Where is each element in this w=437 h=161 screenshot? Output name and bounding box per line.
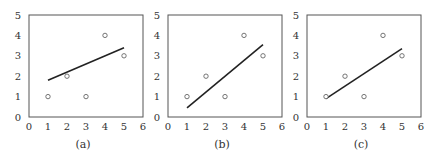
x-tick-label: 2 (203, 121, 209, 132)
x-tick-label: 0 (26, 121, 32, 132)
panel-caption: (a) (75, 138, 90, 151)
fit-line (326, 49, 402, 99)
chart-panel-c: 0123456012345(c) (293, 10, 425, 152)
y-tick-label: 3 (154, 50, 160, 61)
x-tick-label: 1 (323, 121, 329, 132)
x-tick-label: 6 (140, 121, 146, 132)
y-tick-label: 4 (293, 30, 299, 41)
y-tick-label: 5 (15, 10, 21, 21)
y-tick-label: 3 (293, 50, 299, 61)
plot-frame (29, 15, 143, 117)
figure: 0123456012345(a)0123456012345(b)01234560… (0, 0, 437, 161)
x-tick-label: 0 (165, 121, 171, 132)
x-tick-label: 6 (418, 121, 424, 132)
y-tick-label: 0 (154, 112, 160, 123)
y-tick-label: 2 (15, 71, 21, 82)
x-tick-label: 0 (304, 121, 310, 132)
x-tick-label: 6 (279, 121, 285, 132)
data-point (381, 33, 385, 37)
y-tick-label: 5 (154, 10, 160, 21)
y-tick-label: 4 (15, 30, 21, 41)
chart-panel-b: 0123456012345(b) (154, 10, 286, 152)
data-point (343, 74, 347, 78)
data-point (400, 54, 404, 58)
y-tick-label: 2 (154, 71, 160, 82)
y-tick-label: 1 (154, 91, 160, 102)
x-tick-label: 4 (102, 121, 108, 132)
y-tick-label: 0 (15, 112, 21, 123)
y-tick-label: 1 (293, 91, 299, 102)
y-tick-label: 0 (293, 112, 299, 123)
data-point (324, 94, 328, 98)
y-tick-label: 1 (15, 91, 21, 102)
data-point (223, 94, 227, 98)
y-tick-label: 4 (154, 30, 160, 41)
x-tick-label: 3 (222, 121, 228, 132)
y-tick-label: 3 (15, 50, 21, 61)
y-tick-label: 2 (293, 71, 299, 82)
x-tick-label: 4 (380, 121, 386, 132)
x-tick-label: 5 (399, 121, 405, 132)
data-point (362, 94, 366, 98)
data-point (65, 74, 69, 78)
data-point (261, 54, 265, 58)
x-tick-label: 5 (121, 121, 127, 132)
data-point (204, 74, 208, 78)
x-tick-label: 3 (83, 121, 89, 132)
plot-frame (168, 15, 282, 117)
plot-frame (307, 15, 421, 117)
x-tick-label: 3 (361, 121, 367, 132)
chart-panel-a: 0123456012345(a) (15, 10, 147, 152)
panel-caption: (b) (214, 138, 230, 151)
data-point (103, 33, 107, 37)
x-tick-label: 1 (184, 121, 190, 132)
fit-line (48, 48, 124, 81)
x-tick-label: 5 (260, 121, 266, 132)
data-point (242, 33, 246, 37)
x-tick-label: 2 (64, 121, 70, 132)
panel-caption: (c) (354, 138, 369, 151)
x-tick-label: 4 (241, 121, 247, 132)
x-tick-label: 2 (342, 121, 348, 132)
x-tick-label: 1 (45, 121, 51, 132)
data-point (84, 94, 88, 98)
data-point (185, 94, 189, 98)
data-point (46, 94, 50, 98)
y-tick-label: 5 (293, 10, 299, 21)
data-point (122, 54, 126, 58)
